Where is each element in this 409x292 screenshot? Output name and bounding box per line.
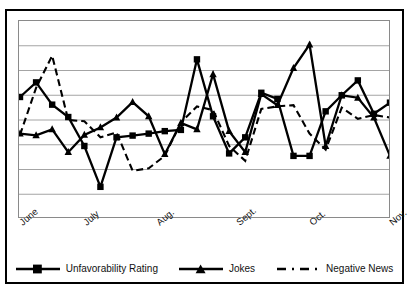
data-point-marker-square <box>33 79 39 85</box>
legend-item-jokes: Jokes <box>178 263 255 275</box>
legend-label-negative-news: Negative News <box>326 263 393 275</box>
data-point-marker-square <box>387 99 390 105</box>
plot-svg <box>19 21 390 218</box>
data-point-marker-square <box>290 153 296 159</box>
data-point-marker-square <box>49 101 55 107</box>
data-point-marker-triangle <box>306 40 313 47</box>
data-point-marker-triangle <box>225 127 232 134</box>
legend-item-negative-news: Negative News <box>275 263 393 275</box>
data-point-marker-square <box>113 134 119 140</box>
series-line-unfavorability-rating <box>20 59 390 186</box>
data-point-marker-square <box>306 153 312 159</box>
legend-swatch-square-icon <box>15 263 61 275</box>
series-lines <box>20 45 390 187</box>
data-point-marker-square <box>355 77 361 83</box>
chart-figure: JuneJulyAug.Sept.Oct.Nov. Unfavorability… <box>0 0 409 292</box>
legend-swatch-dashed-icon <box>275 263 321 275</box>
data-point-marker-square <box>322 108 328 114</box>
data-point-marker-triangle <box>129 98 136 105</box>
data-point-marker-square <box>19 94 23 100</box>
data-point-marker-square <box>210 113 216 119</box>
chart-legend: Unfavorability Rating Jokes Negative New… <box>18 258 390 280</box>
data-point-marker-triangle <box>209 70 216 77</box>
data-point-marker-square <box>129 132 135 138</box>
data-point-marker-square <box>226 150 232 156</box>
series-line-jokes <box>20 45 390 156</box>
data-point-marker-square <box>97 184 103 190</box>
legend-label-unfavorability-rating: Unfavorability Rating <box>66 263 158 275</box>
data-point-marker-square <box>162 128 168 134</box>
data-point-marker-square <box>146 130 152 136</box>
data-point-marker-square <box>242 134 248 140</box>
data-point-marker-square <box>178 127 184 133</box>
x-axis-tick-labels: JuneJulyAug.Sept.Oct.Nov. <box>18 219 390 255</box>
legend-swatch-triangle-icon <box>178 263 224 275</box>
plot-area <box>18 20 390 218</box>
data-point-marker-square <box>194 56 200 62</box>
legend-label-jokes: Jokes <box>229 263 255 275</box>
series-line-negative-news <box>20 56 390 171</box>
legend-item-unfavorability-rating: Unfavorability Rating <box>15 263 158 275</box>
data-point-marker-square <box>81 143 87 149</box>
data-point-marker-square <box>65 114 71 120</box>
data-point-marker-triangle <box>48 125 55 132</box>
